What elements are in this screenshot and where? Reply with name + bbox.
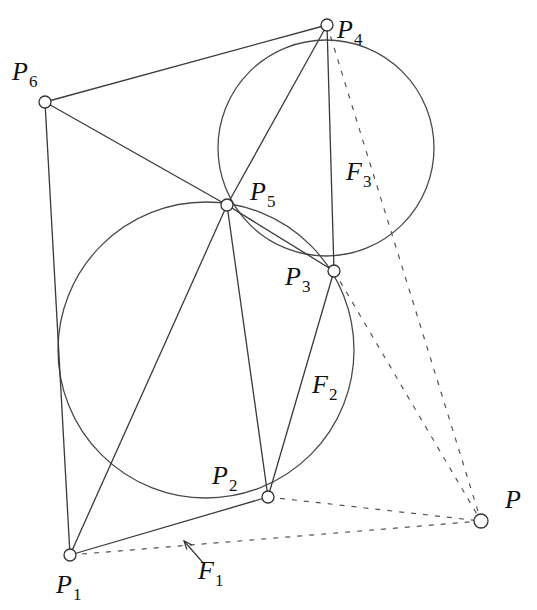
- vertex-p4: [321, 19, 333, 31]
- label-p3: P3: [284, 262, 310, 296]
- vertex-p: [474, 514, 488, 528]
- label-p1: P1: [55, 570, 81, 604]
- vertex-p1: [64, 549, 76, 561]
- edge-p6-p1: [45, 102, 70, 555]
- dashed-edge-p1-p: [70, 521, 481, 555]
- circumcircle-F3: [218, 40, 434, 256]
- visibility-dashed-edges: [70, 25, 481, 555]
- edge-p5-p1: [70, 205, 227, 555]
- edge-p6-p5: [45, 102, 227, 205]
- vertex-p3: [328, 265, 340, 277]
- label-p4: P4: [336, 15, 363, 49]
- face-label-f1: F1: [197, 556, 223, 590]
- dashed-edge-p4-p: [327, 25, 481, 521]
- vertex-p2: [262, 491, 274, 503]
- edge-p5-p3: [227, 205, 334, 271]
- dashed-edge-p2-p: [268, 497, 481, 521]
- label-p6: P6: [11, 57, 37, 91]
- circumcircle-F2: [58, 202, 354, 498]
- edge-p6-p4: [45, 25, 327, 102]
- edge-p4-p3: [327, 25, 334, 271]
- edge-p5-p2: [227, 205, 268, 497]
- label-p5: P5: [249, 177, 275, 211]
- vertices: [39, 19, 488, 561]
- label-p: P: [504, 485, 521, 514]
- dashed-edge-p3-p: [334, 271, 481, 521]
- face-label-f3: F3: [345, 157, 371, 191]
- label-p2: P2: [211, 461, 237, 495]
- delaunay-diagram: P1P2P3P4P5P6PF1F2F3: [0, 0, 537, 610]
- circumcircles: [58, 40, 434, 498]
- face-label-f2: F2: [311, 370, 337, 404]
- vertex-p5: [221, 199, 233, 211]
- vertex-p6: [39, 96, 51, 108]
